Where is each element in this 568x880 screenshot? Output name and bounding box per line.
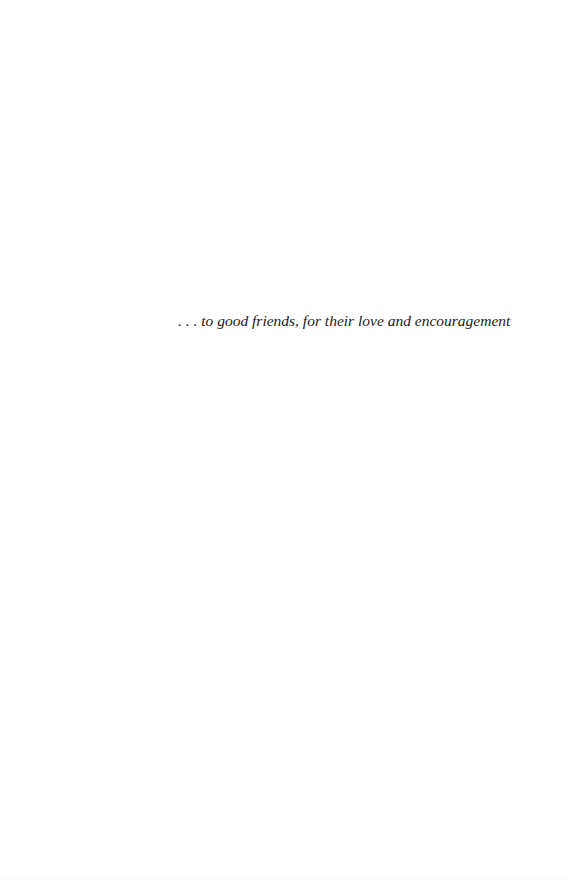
book-page: . . . to good friends, for their love an… bbox=[0, 0, 568, 880]
dedication-text: . . . to good friends, for their love an… bbox=[178, 311, 510, 331]
scan-edge-artifact bbox=[0, 874, 568, 880]
